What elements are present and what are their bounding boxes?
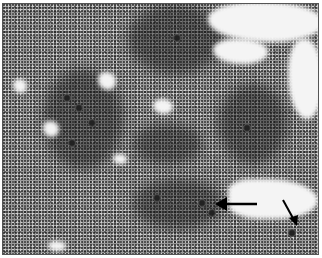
- large-cell: [75, 104, 83, 112]
- clear-region: [43, 121, 59, 137]
- large-cell: [68, 139, 76, 147]
- large-cell: [198, 199, 206, 207]
- clear-region: [113, 154, 127, 164]
- arrow-down-right-icon: [281, 198, 301, 228]
- dark-cluster: [133, 124, 203, 164]
- dark-cluster: [218, 84, 288, 164]
- clear-region: [153, 99, 173, 114]
- large-cell: [243, 124, 251, 132]
- large-cell: [63, 94, 71, 102]
- clear-region: [98, 72, 116, 90]
- large-cell: [88, 119, 96, 127]
- arrow-left-icon: [215, 194, 259, 214]
- large-cell: [153, 194, 161, 202]
- dark-cluster: [133, 179, 223, 229]
- clear-region: [13, 79, 27, 93]
- large-cell: [288, 229, 296, 237]
- clear-region: [48, 241, 66, 251]
- large-cell: [173, 34, 181, 42]
- micrograph: [2, 3, 319, 255]
